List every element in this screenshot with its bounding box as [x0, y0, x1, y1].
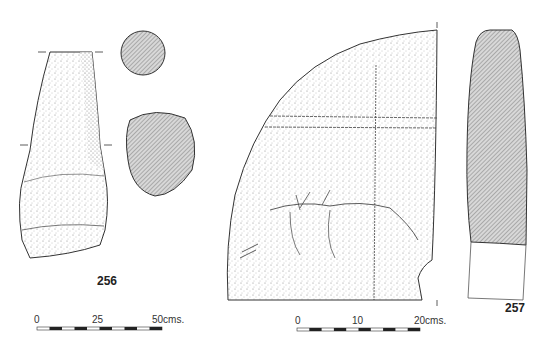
scale-tick: 50cms.	[152, 314, 184, 325]
object-257-section	[467, 30, 527, 300]
object-label-257: 257	[505, 301, 525, 315]
object-256-elevation	[19, 52, 112, 258]
scale-bar-20cm	[297, 328, 420, 331]
scale-tick: 10	[352, 315, 363, 326]
drawing-canvas	[0, 0, 542, 348]
scale-tick: 25	[92, 314, 103, 325]
scale-tick: 20cms.	[414, 315, 446, 326]
scale-tick: 0	[34, 314, 40, 325]
section-256-middle	[126, 112, 194, 196]
object-label-256: 256	[97, 274, 117, 288]
slab-fragment	[227, 22, 437, 306]
scale-bar-50cm	[37, 327, 162, 330]
section-256-top	[121, 31, 165, 75]
scale-tick: 0	[295, 315, 301, 326]
